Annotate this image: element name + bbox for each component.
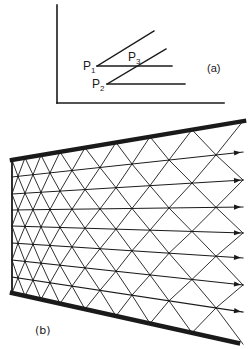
mesh-diagonal xyxy=(85,190,100,209)
mesh-diagonal xyxy=(150,301,169,324)
flow-ray xyxy=(12,226,243,233)
mesh-diagonal xyxy=(150,230,169,253)
mesh-diagonal xyxy=(100,167,116,187)
arrowhead-icon xyxy=(234,178,241,183)
mesh-diagonal xyxy=(169,279,192,300)
panel-a-label: (a) xyxy=(207,63,220,74)
mesh-diagonal xyxy=(150,186,169,208)
mesh-diagonal xyxy=(25,244,33,261)
mesh-diagonal xyxy=(85,268,100,290)
characteristic-diagram xyxy=(0,0,251,349)
mesh-diagonal xyxy=(150,208,169,230)
mesh-diagonal xyxy=(50,265,60,283)
mesh-diagonal xyxy=(72,190,85,210)
mesh-diagonal xyxy=(192,155,216,183)
mesh-diagonal xyxy=(60,209,72,227)
mesh-diagonal xyxy=(116,271,132,295)
mesh-diagonal xyxy=(41,210,50,227)
mesh-diagonal xyxy=(41,283,50,300)
mesh-diagonal xyxy=(60,265,72,286)
arrowhead-icon xyxy=(234,205,241,210)
mesh-diagonal xyxy=(33,244,41,263)
mesh-diagonal xyxy=(18,243,25,261)
mesh-diagonal xyxy=(132,275,150,295)
mesh-diagonal xyxy=(60,171,72,192)
mesh-diagonal xyxy=(116,188,132,209)
mesh-diagonal xyxy=(100,188,116,209)
mesh-diagonal xyxy=(116,251,132,271)
mesh-diagonal xyxy=(85,228,100,249)
mesh-diagonal xyxy=(72,209,85,228)
point-label-p3: P3 xyxy=(128,51,140,66)
mesh-diagonal xyxy=(60,152,72,171)
mesh-diagonal xyxy=(41,155,50,173)
arrowhead-icon xyxy=(234,255,241,260)
mesh-diagonal xyxy=(192,183,216,207)
mesh-diagonal xyxy=(41,192,50,209)
mesh-diagonal xyxy=(100,209,116,229)
mesh-diagonal xyxy=(50,210,60,228)
mesh-diagonal xyxy=(85,290,100,309)
mesh-diagonal xyxy=(85,249,100,268)
mesh-diagonal xyxy=(60,227,72,246)
mesh-diagonal xyxy=(41,245,50,263)
mesh-diagonal xyxy=(18,193,25,210)
panel-b-nozzle-characteristic-mesh xyxy=(12,121,244,344)
mesh-diagonal xyxy=(18,176,25,193)
arrowhead-icon xyxy=(234,308,241,313)
mesh-diagonal xyxy=(25,210,33,227)
mesh-diagonal xyxy=(60,247,72,265)
mesh-diagonal xyxy=(100,229,116,249)
mesh-diagonal xyxy=(60,191,72,209)
mesh-diagonal xyxy=(192,130,216,155)
mesh-diagonal xyxy=(150,275,169,301)
mesh-diagonal xyxy=(25,226,33,244)
mesh-diagonal xyxy=(216,256,243,285)
mesh-diagonal xyxy=(192,231,216,256)
mesh-diagonal xyxy=(216,285,243,308)
mesh-diagonal xyxy=(100,271,116,290)
mesh-diagonal xyxy=(150,160,169,186)
mesh-diagonal xyxy=(33,175,41,193)
mesh-diagonal xyxy=(192,308,216,333)
upper-wall xyxy=(12,121,244,160)
mesh-diagonal xyxy=(216,233,243,256)
mesh-diagonal xyxy=(50,227,60,245)
mesh-diagonal xyxy=(72,247,85,268)
mesh-diagonal xyxy=(192,279,216,307)
mesh-diagonal xyxy=(132,208,150,230)
panel-b-label: (b) xyxy=(35,325,51,336)
mesh-diagonal xyxy=(169,183,192,208)
mesh-diagonal xyxy=(18,226,25,243)
flow-ray xyxy=(12,180,243,194)
mesh-diagonal xyxy=(18,210,25,226)
mesh-diagonal xyxy=(150,253,169,275)
mesh-diagonal xyxy=(72,228,85,247)
mesh-diagonal xyxy=(132,186,150,209)
mesh-diagonal xyxy=(85,209,100,228)
mesh-diagonal xyxy=(60,286,72,304)
mesh-diagonal xyxy=(50,173,60,191)
mesh-diagonal xyxy=(216,207,243,233)
mesh-diagonal xyxy=(72,268,85,286)
mesh-diagonal xyxy=(25,280,33,296)
flow-ray xyxy=(12,207,243,210)
mesh-diagonal xyxy=(41,227,50,246)
mesh-diagonal xyxy=(116,208,132,229)
mesh-diagonal xyxy=(169,160,192,183)
mesh-diagonal xyxy=(116,164,132,188)
mesh-diagonal xyxy=(169,253,192,279)
mesh-diagonal xyxy=(169,231,192,253)
arrowhead-icon xyxy=(234,230,241,235)
mesh-diagonal xyxy=(50,245,60,265)
point-label-p2: P2 xyxy=(92,78,104,93)
mesh-diagonal xyxy=(150,137,169,160)
mesh-diagonal xyxy=(116,143,132,164)
mesh-diagonal xyxy=(85,148,100,168)
mesh-diagonal xyxy=(25,261,33,280)
mesh-diagonal xyxy=(18,261,25,278)
mesh-diagonal xyxy=(85,167,100,189)
mesh-diagonal xyxy=(216,155,243,180)
mesh-diagonal xyxy=(100,249,116,272)
mesh-diagonal xyxy=(216,180,243,207)
